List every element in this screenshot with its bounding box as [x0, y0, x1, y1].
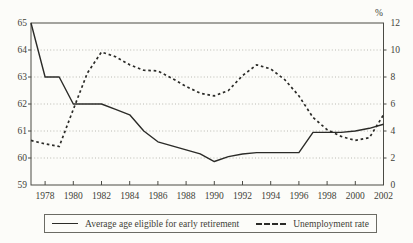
x-axis-label-1990: 1990: [205, 191, 224, 201]
y-axis-label-left-59: 59: [18, 180, 28, 190]
x-axis-label-1984: 1984: [120, 191, 139, 201]
y-axis-label-right-2: 2: [391, 153, 396, 163]
y-axis-label-right-12: 12: [391, 18, 401, 28]
x-axis-label-1992: 1992: [233, 191, 252, 201]
series-line-average-age: [31, 23, 384, 162]
y-axis-label-left-65: 65: [18, 18, 28, 28]
y-axis-label-right-6: 6: [391, 99, 396, 109]
legend-label-unemployment: Unemployment rate: [293, 219, 369, 229]
x-axis-label-1978: 1978: [36, 191, 55, 201]
y-axis-label-left-64: 64: [18, 45, 28, 55]
y-axis-label-left-62: 62: [18, 99, 28, 109]
dashed-line-swatch: [256, 223, 286, 225]
x-axis-label-2002: 2002: [374, 191, 393, 201]
x-axis-label-1998: 1998: [318, 191, 337, 201]
y-axis-label-right-10: 10: [391, 45, 401, 55]
x-axis-label-1980: 1980: [64, 191, 83, 201]
y-axis-label-right-0: 0: [391, 180, 396, 190]
x-axis-label-2000: 2000: [346, 191, 365, 201]
x-axis-label-1982: 1982: [92, 191, 111, 201]
x-axis-label-1994: 1994: [261, 191, 280, 201]
retirement-unemployment-chart: 65646362616059121086420%1978198019821984…: [0, 0, 413, 243]
x-axis-label-1988: 1988: [177, 191, 196, 201]
x-axis-label-1996: 1996: [289, 191, 308, 201]
right-axis-unit-percent: %: [375, 8, 383, 18]
y-axis-label-left-61: 61: [18, 126, 28, 136]
y-axis-label-right-8: 8: [391, 72, 396, 82]
legend-label-average-age: Average age eligible for early retiremen…: [85, 219, 239, 229]
chart-canvas: 65646362616059121086420%1978198019821984…: [0, 0, 413, 243]
chart-legend: Average age eligible for early retiremen…: [44, 214, 377, 233]
y-axis-label-left-60: 60: [18, 153, 28, 163]
x-axis-label-1986: 1986: [148, 191, 167, 201]
y-axis-label-right-4: 4: [391, 126, 396, 136]
solid-line-swatch: [52, 223, 78, 224]
y-axis-label-left-63: 63: [18, 72, 28, 82]
